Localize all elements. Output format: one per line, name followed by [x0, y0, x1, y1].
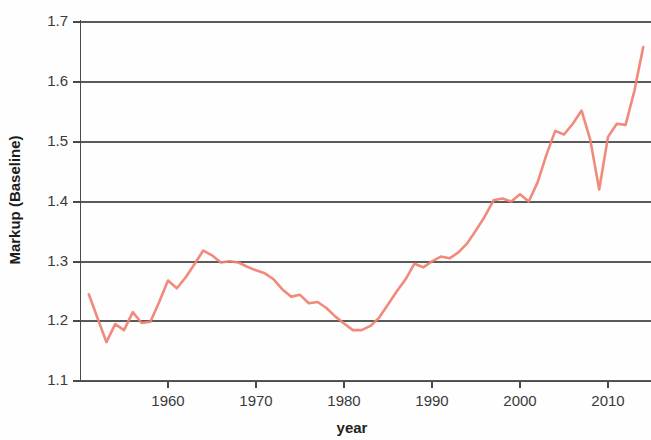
y-tick-label-1-2: 1.2	[47, 311, 68, 328]
y-axis-title: Markup (Baseline)	[6, 135, 23, 264]
x-axis-title: year	[337, 419, 368, 436]
y-tick-label-1-7: 1.7	[47, 12, 68, 29]
y-tick-label-1-3: 1.3	[47, 252, 68, 269]
markup-series-line	[89, 47, 643, 342]
x-tick-label-1980: 1980	[327, 392, 360, 409]
y-tick-label-1-6: 1.6	[47, 72, 68, 89]
y-tick-label-1-4: 1.4	[47, 192, 68, 209]
y-tick-label-1-5: 1.5	[47, 132, 68, 149]
x-axis-group: 1960 1970 1980 1990 2000 2010	[80, 381, 651, 409]
x-tick-label-1990: 1990	[415, 392, 448, 409]
x-tick-label-2000: 2000	[503, 392, 536, 409]
chart-figure: 1.7 1.6 1.5 1.4 1.3 1.2 1.1 1960 1970 19…	[0, 0, 651, 440]
x-tick-label-1970: 1970	[239, 392, 272, 409]
markup-baseline-line-chart: 1.7 1.6 1.5 1.4 1.3 1.2 1.1 1960 1970 19…	[0, 0, 651, 440]
y-tick-label-1-1: 1.1	[47, 371, 68, 388]
x-tick-label-2010: 2010	[591, 392, 624, 409]
y-axis-group: 1.7 1.6 1.5 1.4 1.3 1.2 1.1	[47, 12, 80, 388]
x-tick-label-1960: 1960	[151, 392, 184, 409]
